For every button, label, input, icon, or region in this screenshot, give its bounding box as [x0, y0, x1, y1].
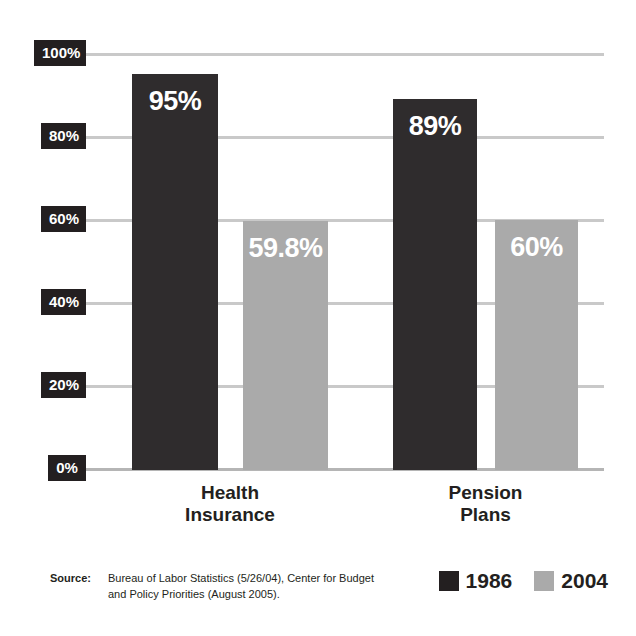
bar-chart-figure: 95% 59.8% 89% 60% 100% 80% 60% 40% 20% 0… [0, 0, 636, 636]
bar-pension-plans-1986[interactable]: 89% [393, 99, 477, 470]
bar-value-health-insurance-2004: 59.8% [243, 235, 328, 262]
bar-health-insurance-2004[interactable]: 59.8% [243, 221, 328, 470]
bar-value-pension-plans-2004: 60% [495, 234, 578, 261]
legend: 1986 2004 [439, 570, 608, 591]
bar-value-pension-plans-1986: 89% [393, 113, 477, 140]
bar-value-health-insurance-1986: 95% [132, 88, 218, 115]
tick-stub-40 [60, 302, 72, 305]
source-text: Bureau of Labor Statistics (5/26/04), Ce… [108, 571, 380, 603]
tick-stub-80 [60, 136, 72, 139]
legend-swatch-icon-2004 [534, 571, 554, 591]
tick-stub-20 [60, 385, 72, 388]
legend-label-2004: 2004 [561, 570, 608, 591]
gridline-100 [72, 53, 604, 56]
legend-item-2004[interactable]: 2004 [534, 570, 608, 591]
legend-swatch-icon-1986 [439, 571, 459, 591]
category-label-pension-plans: Pension Plans [393, 482, 578, 526]
legend-label-1986: 1986 [466, 570, 513, 591]
bar-health-insurance-1986[interactable]: 95% [132, 74, 218, 470]
bar-pension-plans-2004[interactable]: 60% [495, 220, 578, 470]
source-note: Source: Bureau of Labor Statistics (5/26… [50, 571, 380, 603]
plot-area: 95% 59.8% 89% 60% [72, 53, 604, 470]
tick-stub-100 [60, 53, 72, 56]
legend-item-1986[interactable]: 1986 [439, 570, 513, 591]
category-label-health-insurance: Health Insurance [132, 482, 328, 526]
source-label: Source: [50, 571, 108, 587]
tick-stub-0 [60, 468, 72, 471]
tick-stub-60 [60, 219, 72, 222]
